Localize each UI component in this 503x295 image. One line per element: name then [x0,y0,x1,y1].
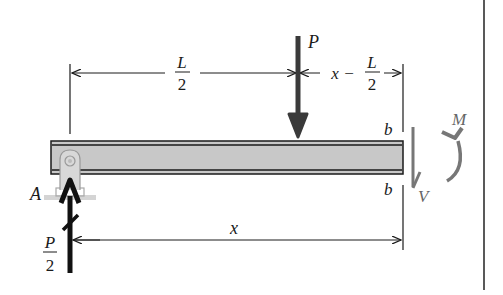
svg-text:P: P [44,233,55,252]
moment-arrow [442,128,462,181]
offset-numerator: L [366,53,376,72]
half-length-numerator: L [176,53,186,72]
dimension-offset: x − L 2 [300,53,401,94]
beam-diagram: L 2 x − L 2 x A P 2 [0,0,503,295]
dimension-x: x [73,218,401,240]
dimension-half-length: L 2 [72,53,296,94]
offset-prefix: x − [330,64,354,83]
moment-label: M [451,110,467,129]
support-label: A [29,184,42,204]
svg-text:2: 2 [46,256,55,275]
section-label-top: b [384,120,393,139]
shear-arrow [413,127,420,188]
reaction-arrow [61,180,79,273]
shear-label: V [418,187,431,206]
distance-label: x [229,218,238,238]
load-label: P [307,32,319,52]
section-label-bottom: b [384,180,393,199]
beam [51,141,403,174]
load-arrow [289,36,307,137]
reaction-label: P 2 [43,233,57,275]
half-length-denominator: 2 [178,75,187,94]
offset-denominator: 2 [368,75,377,94]
